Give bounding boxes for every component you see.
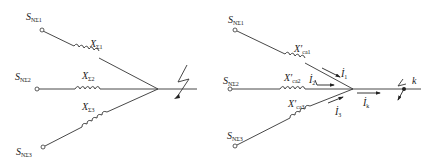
circuit-diagram: SNΣ1 SNΣ2 SNΣ3 XΣ1 XΣ2 XΣ3 (0, 0, 431, 164)
reactance-label-2: X′ca2 (283, 72, 301, 84)
source-node (35, 87, 39, 91)
inductor-icon (75, 87, 100, 90)
source-node (41, 145, 45, 149)
source-label-3: SNΣ3 (227, 130, 243, 142)
source-node (228, 87, 232, 91)
branch-1 (40, 28, 158, 89)
source-label-2: SNΣ2 (15, 71, 31, 83)
current-label-2: İ2 (308, 74, 315, 86)
branch-2 (35, 87, 197, 92)
reactance-label-2: XΣ2 (81, 70, 95, 82)
right-network: SNΣ1 SNΣ2 SNΣ3 X′ca1 X′ca2 X′ca3 İ1 İ2 İ… (223, 14, 421, 148)
source-label-1: SNΣ1 (26, 11, 42, 23)
reactance-label-3: X′ca3 (287, 98, 305, 110)
source-node (233, 144, 237, 148)
current-label-k: İk (362, 97, 369, 109)
source-label-1: SNΣ1 (228, 14, 244, 26)
current-label-1: İ1 (340, 68, 347, 80)
current-arrow-2 (315, 80, 334, 85)
reactance-label-1: X′ca1 (293, 43, 311, 55)
reactance-label-3: XΣ3 (81, 101, 95, 113)
inductor-icon (82, 111, 107, 127)
source-label-2: SNΣ2 (223, 75, 239, 87)
source-node (40, 28, 44, 32)
fault-lightning-icon (398, 79, 406, 100)
fault-label: k (412, 75, 417, 86)
current-label-3: İ3 (334, 106, 341, 118)
left-network: SNΣ1 SNΣ2 SNΣ3 XΣ1 XΣ2 XΣ3 (15, 11, 197, 158)
source-node (233, 28, 237, 32)
branch-3 (41, 89, 158, 149)
current-arrow-1 (322, 68, 340, 77)
inductor-icon (280, 87, 305, 90)
branch-2 (228, 87, 421, 92)
fault-lightning-icon (174, 65, 189, 99)
source-label-3: SNΣ3 (16, 146, 32, 158)
reactance-label-1: XΣ1 (89, 38, 103, 50)
